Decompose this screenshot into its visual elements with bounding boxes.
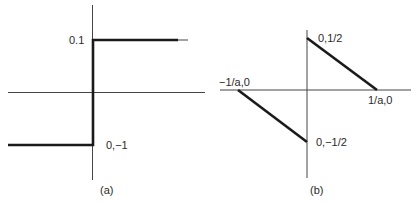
panel-a-label-upper: 0.1 <box>69 34 84 46</box>
figure-canvas: 0.1 0,−1 (a) 0,1/2 0,−1/2 −1/a,0 1/a,0 (… <box>0 0 417 203</box>
panel-b-label-top: 0,1/2 <box>318 32 342 44</box>
panel-b-lower-segment <box>238 90 307 142</box>
panel-b-caption: (b) <box>310 184 323 196</box>
panel-b: 0,1/2 0,−1/2 −1/a,0 1/a,0 (b) <box>219 30 411 196</box>
panel-b-label-left: −1/a,0 <box>219 76 250 88</box>
panel-b-label-bottom: 0,−1/2 <box>316 136 347 148</box>
panel-a-caption: (a) <box>100 184 113 196</box>
panel-a-label-lower: 0,−1 <box>106 139 128 151</box>
panel-b-label-right: 1/a,0 <box>368 94 392 106</box>
panel-b-upper-segment <box>307 38 377 90</box>
panel-a: 0.1 0,−1 (a) <box>8 5 205 196</box>
